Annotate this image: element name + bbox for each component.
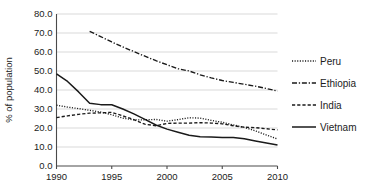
series-line-vietnam xyxy=(57,74,278,145)
legend: PeruEthiopiaIndiaVietnam xyxy=(292,56,357,133)
y-axis-label-text: % of population xyxy=(3,57,14,123)
line-chart: 0.010.020.030.040.050.060.070.080.0 1990… xyxy=(0,0,368,192)
series-line-ethiopia xyxy=(90,31,278,91)
legend-label-india: India xyxy=(320,100,342,111)
y-tick-label: 70.0 xyxy=(34,27,53,38)
y-tick-label: 10.0 xyxy=(34,141,53,152)
legend-label-vietnam: Vietnam xyxy=(320,122,357,133)
y-axis-tick-labels: 0.010.020.030.040.050.060.070.080.0 xyxy=(34,8,53,171)
chart-canvas: 0.010.020.030.040.050.060.070.080.0 1990… xyxy=(0,0,368,192)
y-tick-label: 50.0 xyxy=(34,65,53,76)
x-tick-label: 1990 xyxy=(46,171,67,182)
x-tick-label: 1995 xyxy=(101,171,122,182)
y-axis-title: % of population xyxy=(3,57,14,123)
y-tick-label: 40.0 xyxy=(34,84,53,95)
x-tick-label: 2000 xyxy=(156,171,177,182)
series-line-peru xyxy=(57,105,278,139)
legend-label-peru: Peru xyxy=(320,56,341,67)
y-tick-label: 30.0 xyxy=(34,103,53,114)
y-tick-label: 80.0 xyxy=(34,8,53,19)
x-tick-label: 2005 xyxy=(212,171,233,182)
y-tick-label: 20.0 xyxy=(34,122,53,133)
y-tick-label: 60.0 xyxy=(34,46,53,57)
x-tick-label: 2010 xyxy=(267,171,288,182)
legend-label-ethiopia: Ethiopia xyxy=(320,78,357,89)
x-axis-tick-labels: 19901995200020052010 xyxy=(46,166,288,182)
